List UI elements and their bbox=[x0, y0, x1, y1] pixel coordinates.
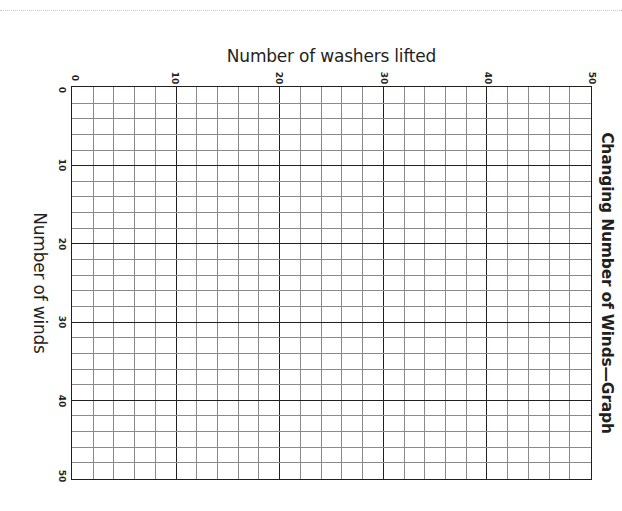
x-tick-label: 50 bbox=[587, 72, 597, 85]
chart-title: Changing Number of Winds—Graph bbox=[598, 132, 616, 434]
grid-hline bbox=[72, 243, 591, 244]
grid-hline bbox=[72, 431, 591, 432]
grid-vline bbox=[113, 87, 114, 479]
grid-vline bbox=[155, 87, 156, 479]
grid-vline bbox=[362, 87, 363, 479]
grid-vline bbox=[134, 87, 135, 479]
x-tick-label: 40 bbox=[483, 72, 493, 85]
grid-vline bbox=[93, 87, 94, 479]
grid-vline bbox=[466, 87, 467, 479]
grid-hline bbox=[72, 118, 591, 119]
grid-hline bbox=[72, 322, 591, 323]
y-axis-label: Number of winds bbox=[30, 212, 50, 354]
x-tick-label: 10 bbox=[170, 72, 180, 85]
grid-vline bbox=[404, 87, 405, 479]
grid-hline bbox=[72, 181, 591, 182]
grid-hline bbox=[72, 415, 591, 416]
y-tick-label: 40 bbox=[57, 395, 67, 408]
grid-hline bbox=[72, 259, 591, 260]
grid-vline bbox=[217, 87, 218, 479]
x-tick-label: 30 bbox=[379, 72, 389, 85]
grid-vline bbox=[196, 87, 197, 479]
grid-hline bbox=[72, 196, 591, 197]
x-axis-label: Number of washers lifted bbox=[71, 46, 592, 66]
grid-hline bbox=[72, 400, 591, 401]
grid-vline bbox=[383, 87, 384, 479]
grid-hline bbox=[72, 290, 591, 291]
x-tick-label: 20 bbox=[274, 72, 284, 85]
y-tick-label: 10 bbox=[57, 159, 67, 172]
grid-vline bbox=[549, 87, 550, 479]
grid-vline bbox=[258, 87, 259, 479]
grid-hline bbox=[72, 462, 591, 463]
y-tick-label: 0 bbox=[57, 87, 67, 93]
grid-hline bbox=[72, 306, 591, 307]
grid-vline bbox=[341, 87, 342, 479]
grid-vline bbox=[176, 87, 177, 479]
grid-hline bbox=[72, 134, 591, 135]
grid-hline bbox=[72, 212, 591, 213]
grid-hline bbox=[72, 103, 591, 104]
grid-hline bbox=[72, 228, 591, 229]
grid-vline bbox=[300, 87, 301, 479]
grid-hline bbox=[72, 353, 591, 354]
y-tick-label: 20 bbox=[57, 237, 67, 250]
grid-vline bbox=[424, 87, 425, 479]
y-tick-label: 50 bbox=[57, 470, 67, 483]
graph-grid bbox=[71, 86, 592, 480]
grid-hline bbox=[72, 369, 591, 370]
grid-vline bbox=[528, 87, 529, 479]
grid-vline bbox=[279, 87, 280, 479]
y-tick-label: 30 bbox=[57, 316, 67, 329]
grid-vline bbox=[445, 87, 446, 479]
grid-hline bbox=[72, 275, 591, 276]
grid-hline bbox=[72, 150, 591, 151]
grid-hline bbox=[72, 384, 591, 385]
grid-hline bbox=[72, 165, 591, 166]
grid-hline bbox=[72, 337, 591, 338]
grid-vline bbox=[238, 87, 239, 479]
grid-vline bbox=[486, 87, 487, 479]
x-tick-label: 0 bbox=[70, 75, 80, 81]
grid-vline bbox=[569, 87, 570, 479]
grid-hline bbox=[72, 447, 591, 448]
grid-vline bbox=[321, 87, 322, 479]
grid-vline bbox=[507, 87, 508, 479]
page-top-rule bbox=[0, 10, 622, 11]
